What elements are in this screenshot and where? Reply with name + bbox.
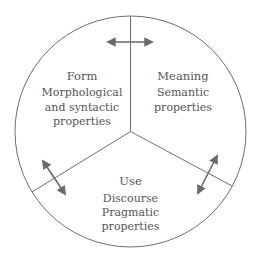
meaning-title: Meaning — [157, 69, 209, 83]
divider-left — [32, 132, 131, 193]
form-line-1: Morphological — [42, 86, 123, 99]
use-line-3: properties — [102, 220, 160, 233]
meaning-section: Meaning Semantic properties — [154, 69, 212, 114]
meaning-line-1: Semantic — [157, 86, 209, 99]
meaning-line-2: properties — [154, 101, 212, 114]
form-meaning-use-diagram: Form Morphological and syntactic propert… — [0, 0, 256, 255]
form-line-2: and syntactic — [45, 101, 119, 114]
meaning-use-arrow-icon — [198, 156, 217, 193]
use-title: Use — [119, 174, 142, 188]
use-section: Use Discourse Pragmatic properties — [102, 174, 160, 233]
form-title: Form — [67, 69, 98, 83]
form-line-3: properties — [53, 115, 111, 128]
form-section: Form Morphological and syntactic propert… — [42, 69, 123, 128]
form-use-arrow-icon — [43, 161, 65, 194]
use-line-2: Pragmatic — [102, 206, 159, 219]
divider-right — [131, 132, 233, 187]
use-line-1: Discourse — [103, 192, 158, 205]
